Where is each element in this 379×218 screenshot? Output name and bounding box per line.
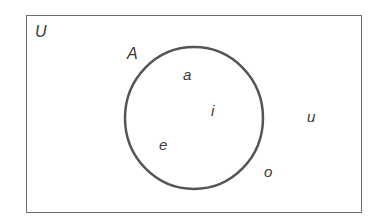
universe-label: U <box>35 24 47 40</box>
set-a-label: A <box>127 46 138 62</box>
set-a-circle <box>0 0 379 218</box>
element-a: a <box>183 67 191 82</box>
element-e: e <box>159 137 167 152</box>
element-u: u <box>307 109 315 124</box>
element-o: o <box>264 164 272 179</box>
element-i: i <box>211 103 214 118</box>
